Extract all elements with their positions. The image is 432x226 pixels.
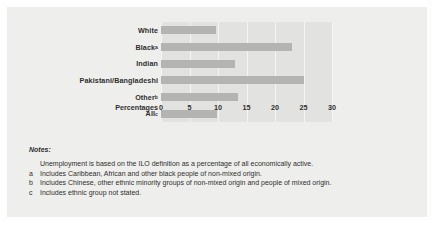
note-marker: c [29, 188, 40, 198]
note-text: Includes Chinese, other ethnic minority … [40, 178, 419, 188]
bar [161, 43, 292, 51]
note-line: bIncludes Chinese, other ethnic minority… [29, 178, 419, 188]
page-edge-top [0, 0, 432, 7]
tick-label: 0 [159, 103, 163, 112]
category-label: Blacka [20, 39, 158, 56]
note-line: cIncludes ethnic group not stated. [29, 188, 419, 198]
tick-label: 30 [328, 103, 336, 112]
category-label: Indian [20, 55, 158, 72]
note-marker: b [29, 178, 40, 188]
bar-row [161, 72, 332, 89]
note-line: aIncludes Caribbean, African and other b… [29, 169, 419, 179]
bar-row [161, 39, 332, 56]
tick-label: 10 [214, 103, 222, 112]
note-line: Unemployment is based on the ILO definit… [29, 159, 419, 169]
category-label: Pakistani/Bangladeshi [20, 72, 158, 89]
bar [161, 76, 304, 84]
bar [161, 26, 216, 34]
bar-chart: WhiteBlackaIndianPakistani/BangladeshiOt… [0, 22, 432, 144]
notes-lines: Unemployment is based on the ILO definit… [29, 159, 419, 197]
note-marker: a [29, 169, 40, 179]
notes-block: Notes: Unemployment is based on the ILO … [29, 146, 419, 197]
note-marker [29, 159, 40, 169]
notes-heading: Notes: [29, 146, 419, 153]
page-edge-bottom [0, 217, 432, 226]
note-text: Unemployment is based on the ILO definit… [40, 159, 419, 169]
bar-row [161, 22, 332, 39]
bar-row [161, 55, 332, 72]
tick-label: 15 [243, 103, 251, 112]
note-text: Includes Caribbean, African and other bl… [40, 169, 419, 179]
value-axis: Percentages 051015202530 [0, 100, 432, 120]
tick-label: 20 [271, 103, 279, 112]
category-label: White [20, 22, 158, 39]
note-text: Includes ethnic group not stated. [40, 188, 419, 198]
tick-label: 25 [300, 103, 308, 112]
axis-title: Percentages [115, 103, 158, 112]
tick-label: 5 [188, 103, 192, 112]
figure-page: WhiteBlackaIndianPakistani/BangladeshiOt… [0, 0, 432, 226]
bar [161, 60, 235, 68]
